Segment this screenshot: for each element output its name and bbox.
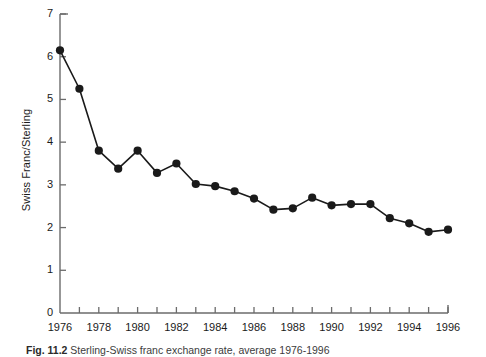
data-series-line [60, 50, 448, 232]
figure-caption-text: Sterling-Swiss franc exchange rate, aver… [70, 344, 329, 356]
x-tick-label: 1992 [350, 321, 390, 333]
x-tick-label: 1982 [156, 321, 196, 333]
line-chart-plot [0, 0, 486, 357]
x-tick-label: 1986 [234, 321, 274, 333]
y-tick-label: 1 [39, 263, 53, 275]
x-tick-label: 1996 [428, 321, 468, 333]
figure-container: Swiss Franc/Sterling 01234567 1976197819… [0, 0, 486, 357]
y-tick-label: 0 [39, 306, 53, 318]
figure-caption: Fig. 11.2 Sterling-Swiss franc exchange … [26, 344, 478, 357]
y-tick-label: 3 [39, 178, 53, 190]
y-tick-label: 5 [39, 92, 53, 104]
data-point-markers [56, 46, 452, 236]
x-tick-label: 1980 [118, 321, 158, 333]
x-tick-label: 1976 [40, 321, 80, 333]
y-axis-label-text: Swiss Franc/Sterling [20, 109, 32, 211]
y-tick-label: 4 [39, 135, 53, 147]
y-tick-label: 7 [39, 7, 53, 19]
x-tick-label: 1994 [389, 321, 429, 333]
x-tick-label: 1984 [195, 321, 235, 333]
y-tick-label: 2 [39, 221, 53, 233]
y-axis-label: Swiss Franc/Sterling [14, 0, 38, 320]
x-tick-label: 1990 [312, 321, 352, 333]
x-tick-label: 1988 [273, 321, 313, 333]
figure-number: Fig. 11.2 [26, 344, 67, 356]
y-tick-label: 6 [39, 50, 53, 62]
chart-axes [60, 14, 448, 313]
x-tick-label: 1978 [79, 321, 119, 333]
